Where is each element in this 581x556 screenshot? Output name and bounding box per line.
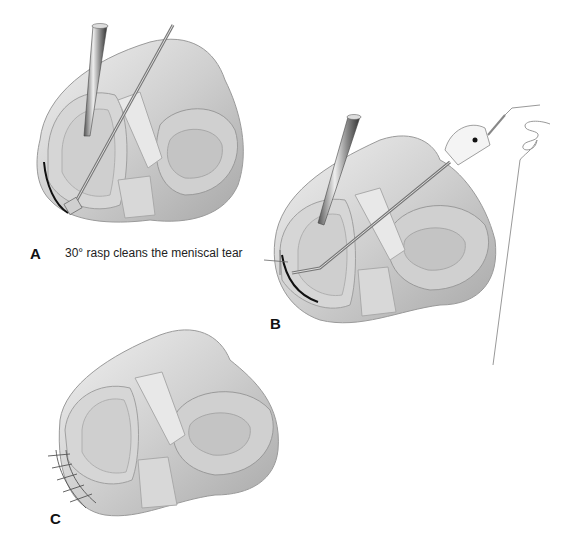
panel-label-a: A — [30, 245, 41, 262]
knee-meniscus-illustration-a — [0, 0, 260, 260]
panel-a: A 30° rasp cleans the meniscal tear — [0, 0, 260, 260]
knee-meniscus-illustration-c — [20, 310, 310, 556]
panel-c: C — [20, 310, 310, 556]
panel-label-c: C — [50, 510, 61, 527]
panel-caption-a: 30° rasp cleans the meniscal tear — [65, 246, 243, 260]
suture-thread-icon — [493, 121, 550, 365]
